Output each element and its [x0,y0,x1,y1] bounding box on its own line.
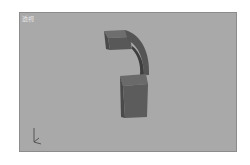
telephone-handset-model[interactable] [20,13,237,152]
perspective-viewport[interactable]: 透视 [19,12,237,152]
axis-gizmo-icon [30,125,48,147]
